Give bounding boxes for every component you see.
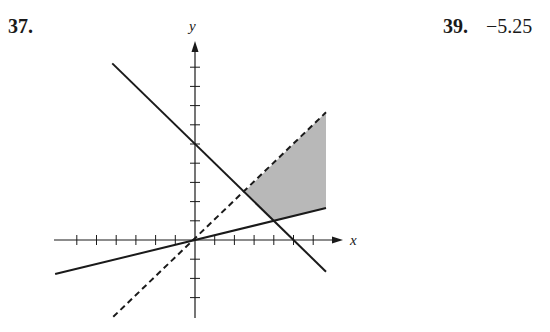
- y-axis: [190, 41, 200, 318]
- boundary-line-3: [55, 208, 326, 274]
- y-axis-arrow-icon: [192, 41, 199, 52]
- y-axis-label: y: [187, 18, 196, 34]
- x-axis-arrow-icon: [332, 237, 343, 244]
- x-axis-label: x: [349, 232, 357, 248]
- inequality-graph: x y: [0, 0, 550, 332]
